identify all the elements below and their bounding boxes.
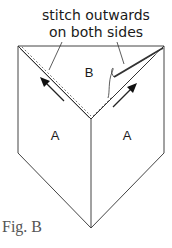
diagram-canvas: stitch outwards on both sides B A A Fig.… <box>0 0 172 248</box>
annotation-line-2: on both sides <box>49 24 143 40</box>
stitch-line-left-outer <box>20 49 89 118</box>
stitch-line-right <box>93 97 112 116</box>
arrow-right-shaft <box>113 89 131 107</box>
stitch-line-left <box>22 47 91 116</box>
label-panel-a-right: A <box>123 128 132 143</box>
needle-icon <box>114 48 163 77</box>
figure-caption: Fig. B <box>2 218 42 236</box>
annotation-line-1: stitch outwards <box>42 7 150 23</box>
flap-fold-line <box>18 46 164 119</box>
leader-line-right <box>117 42 124 64</box>
label-panel-a-left: A <box>51 128 60 143</box>
thread <box>108 68 114 98</box>
label-flap-b: B <box>85 65 94 80</box>
arrow-left-shaft <box>46 83 64 101</box>
